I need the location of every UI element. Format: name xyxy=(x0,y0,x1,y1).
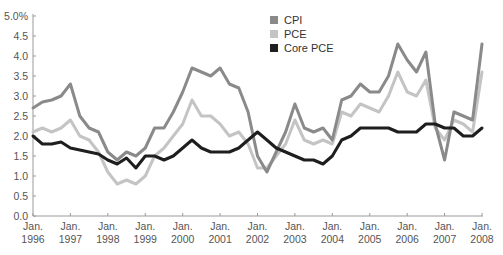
y-tick-label: 4.5 xyxy=(13,30,28,42)
y-tick-label: 2.5 xyxy=(13,110,28,122)
x-tick-label-month: Jan. xyxy=(98,220,118,232)
x-tick-label-month: Jan. xyxy=(322,220,342,232)
x-tick-label-year: 2007 xyxy=(433,233,457,245)
x-tick-label-month: Jan. xyxy=(397,220,417,232)
x-tick-label-month: Jan. xyxy=(173,220,193,232)
x-tick-label-year: 2000 xyxy=(171,233,195,245)
x-tick-label-month: Jan. xyxy=(248,220,268,232)
series-line-pce xyxy=(33,72,482,184)
y-tick-label: 0.5 xyxy=(13,190,28,202)
x-tick-label-month: Jan. xyxy=(23,220,43,232)
x-tick-label-month: Jan. xyxy=(472,220,492,232)
x-tick-label-month: Jan. xyxy=(60,220,80,232)
x-tick-label-month: Jan. xyxy=(435,220,455,232)
legend-swatch-cpi xyxy=(270,16,278,24)
y-tick-label: 5.0% xyxy=(4,10,28,22)
x-tick-label-year: 2006 xyxy=(395,233,419,245)
inflation-line-chart: 0.00.51.01.52.02.53.03.54.04.55.0% Jan.1… xyxy=(0,0,503,255)
x-tick-label-year: 1997 xyxy=(59,233,83,245)
y-tick-label: 1.5 xyxy=(13,150,28,162)
x-tick-label-year: 2002 xyxy=(246,233,270,245)
y-tick-label: 1.0 xyxy=(13,170,28,182)
x-tick-label-year: 2001 xyxy=(208,233,232,245)
x-tick-label-month: Jan. xyxy=(285,220,305,232)
y-tick-label: 4.0 xyxy=(13,50,28,62)
x-tick-label-year: 1996 xyxy=(21,233,45,245)
legend-swatch-pce xyxy=(270,30,278,38)
series-line-core-pce xyxy=(33,124,482,168)
legend-item-cpi: CPI xyxy=(270,14,302,26)
x-tick-label-year: 1999 xyxy=(134,233,158,245)
legend: CPI PCE Core PCE xyxy=(270,14,334,54)
x-tick-label-year: 1998 xyxy=(96,233,120,245)
x-tick-label-year: 2003 xyxy=(283,233,307,245)
legend-label-core-pce: Core PCE xyxy=(284,42,334,54)
x-tick-label-month: Jan. xyxy=(210,220,230,232)
series-lines xyxy=(33,44,482,184)
x-tick-label-year: 2008 xyxy=(470,233,494,245)
x-tick-label-year: 2004 xyxy=(321,233,345,245)
legend-label-cpi: CPI xyxy=(284,14,302,26)
y-tick-label: 3.0 xyxy=(13,90,28,102)
legend-item-core-pce: Core PCE xyxy=(270,42,334,54)
x-axis: Jan.1996Jan.1997Jan.1998Jan.1999Jan.2000… xyxy=(21,213,494,245)
x-tick-label-month: Jan. xyxy=(360,220,380,232)
legend-swatch-core-pce xyxy=(270,44,278,52)
y-tick-label: 2.0 xyxy=(13,130,28,142)
y-tick-label: 3.5 xyxy=(13,70,28,82)
x-tick-label-month: Jan. xyxy=(135,220,155,232)
legend-item-pce: PCE xyxy=(270,28,307,40)
y-axis: 0.00.51.01.52.02.53.03.54.04.55.0% xyxy=(4,10,36,222)
x-tick-label-year: 2005 xyxy=(358,233,382,245)
legend-label-pce: PCE xyxy=(284,28,307,40)
